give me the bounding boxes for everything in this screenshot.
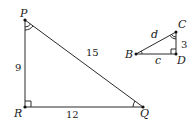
side-pq [25, 20, 143, 107]
label-c: C [178, 18, 187, 31]
label-side-pq: 15 [86, 47, 99, 58]
label-side-bc: d [151, 28, 158, 41]
angle-arc-p-inner [25, 24, 31, 27]
label-side-pr: 9 [15, 62, 21, 73]
label-side-cd: 3 [181, 39, 187, 50]
small-triangle: B C D d 3 c [124, 18, 187, 67]
label-side-bd: c [155, 54, 161, 67]
label-d: D [176, 54, 186, 67]
label-side-rq: 12 [66, 109, 79, 120]
label-q: Q [140, 107, 149, 120]
label-r: R [13, 107, 22, 120]
point-b [135, 53, 138, 56]
label-b: B [124, 48, 133, 61]
similar-triangles-diagram: P R Q 9 12 15 B C D d 3 c [0, 0, 192, 128]
angle-arc-q [133, 101, 135, 107]
large-triangle: P R Q 9 12 15 [13, 7, 149, 120]
angle-arc-c-inner [172, 34, 176, 37]
point-r [23, 105, 26, 108]
label-p: P [19, 7, 28, 20]
